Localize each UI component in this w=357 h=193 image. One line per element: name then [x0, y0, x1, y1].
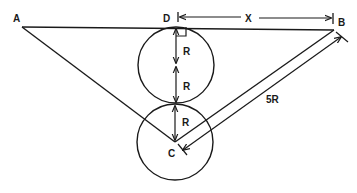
label-B: B — [338, 17, 345, 28]
line-AC — [22, 27, 175, 142]
label-C: C — [168, 148, 175, 159]
label-X: X — [245, 13, 252, 24]
label-R-top-lower: R — [183, 81, 191, 92]
tick-5R-C — [178, 144, 187, 155]
line-BC — [175, 30, 334, 142]
geometry-diagram: A D B C X R R R 5R — [0, 0, 357, 193]
tick-5R-B — [336, 32, 348, 42]
label-A: A — [13, 13, 20, 24]
label-R-top-upper: R — [183, 46, 191, 57]
label-5R: 5R — [266, 94, 280, 105]
label-D: D — [163, 13, 170, 24]
label-R-bottom: R — [182, 117, 190, 128]
dim-5R — [183, 37, 341, 150]
